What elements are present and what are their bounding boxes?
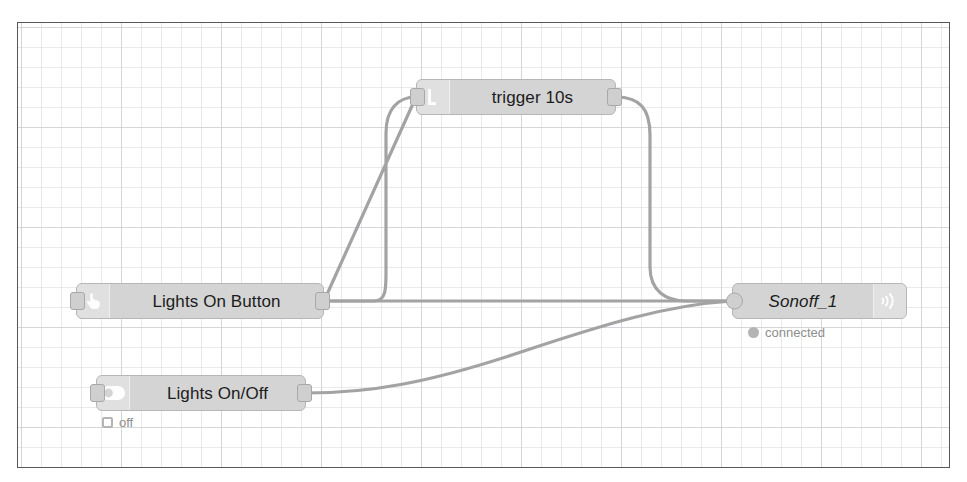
sonoff-1-status: connected [748,325,825,340]
wire-button-to-trigger[interactable] [324,97,416,301]
lights-on-off-label: Lights On/Off [130,385,305,402]
trigger-label: trigger 10s [450,89,615,106]
node-lights-on-off[interactable]: Lights On/Off [96,375,306,411]
sonoff-1-status-text: connected [765,325,825,340]
lights-on-off-status-text: off [119,415,133,430]
lights-on-off-status: off [102,415,133,430]
lights-on-off-input-port[interactable] [90,384,105,402]
node-sonoff-1[interactable]: Sonoff_1 [732,283,907,319]
sonoff-1-input-port[interactable] [726,293,743,310]
wifi-broadcast-icon [873,284,906,318]
sonoff-1-label: Sonoff_1 [733,293,873,310]
node-trigger[interactable]: trigger 10s [416,79,616,115]
lights-on-button-input-port[interactable] [70,292,85,310]
status-dot-icon [748,327,759,338]
flow-canvas[interactable]: trigger 10s Lights On Button Li [17,22,950,468]
status-ring-icon [102,417,113,428]
lights-on-button-label: Lights On Button [110,293,323,310]
trigger-input-port[interactable] [410,88,425,106]
node-lights-on-button[interactable]: Lights On Button [76,283,324,319]
lights-on-button-output-port[interactable] [315,292,330,310]
flow-diagram-figure: trigger 10s Lights On Button Li [0,0,967,482]
trigger-output-port[interactable] [607,88,622,106]
wire-onoff-to-sonoff[interactable] [306,301,732,393]
lights-on-off-output-port[interactable] [297,384,312,402]
wire-trigger-to-sonoff[interactable] [616,97,732,301]
